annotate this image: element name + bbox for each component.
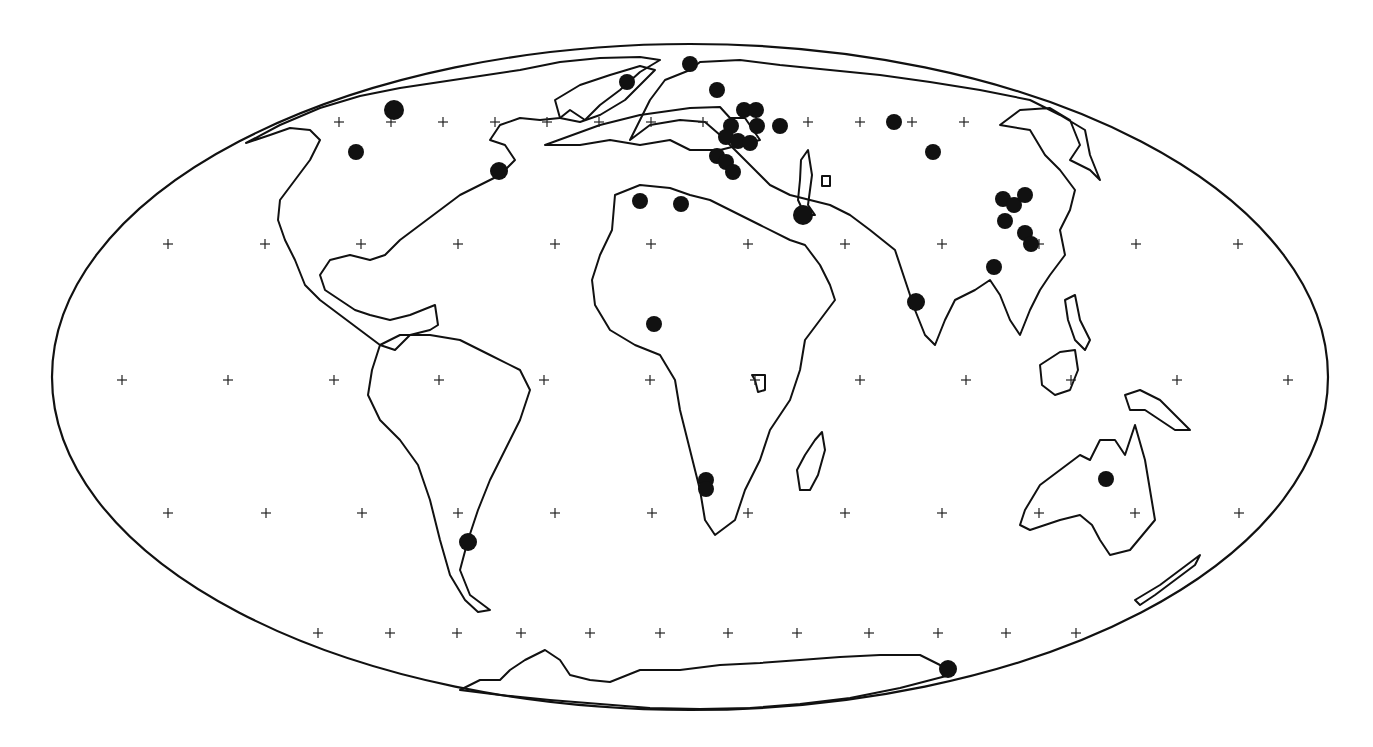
site-marker-dot: Alaska/NW Canada [384,100,404,120]
site-marker-dot: Russia W2 [748,102,764,118]
site-marker-dot: Namibia 2 [698,481,714,497]
site-marker-dot: Russia W3 [749,118,765,134]
site-marker-dot: NE China [1017,187,1033,203]
site-marker-dot: Greenland [619,74,635,90]
site-marker-dot: Svalbard [682,56,698,72]
site-marker-dot: Spain [632,193,648,209]
site-marker-dot: West Africa [646,316,662,332]
site-marker-dot: Central Siberia [925,144,941,160]
world-map-figure: Alaska/NW CanadaWestern CanadaEastern Ca… [0,0,1373,747]
site-marker-dot: Australia [1098,471,1114,487]
site-marker-dot: Italy/Tunisia [673,196,689,212]
mollweide-map-canvas: Alaska/NW CanadaWestern CanadaEastern Ca… [0,0,1373,747]
site-marker-dot: Eastern Canada [490,162,508,180]
site-marker-dot: Western Canada [348,144,364,160]
site-marker-dot: Caspian/Iran [793,205,813,225]
site-marker-dot: Russia W4 [742,135,758,151]
site-marker-dot: Argentina [459,533,477,551]
site-marker-dot: Antarctica [939,660,957,678]
site-marker-dot: East China 2 [1023,236,1039,252]
site-marker-dot: West Siberia [886,114,902,130]
site-marker-dot: India [907,293,925,311]
site-marker-dot: Scandinavia [709,82,725,98]
site-marker-dot: Moscow area [772,118,788,134]
site-marker-dot: South China [986,259,1002,275]
site-marker-dot: Ukraine 3 [725,164,741,180]
site-marker-dot: China central [997,213,1013,229]
map-outline-ellipse [52,44,1328,710]
